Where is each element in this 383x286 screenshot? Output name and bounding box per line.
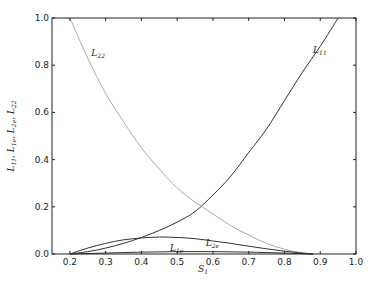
series-l11 [70,18,338,254]
x-tick-label: 1.0 [349,257,364,267]
x-tick-label: 0.3 [98,257,112,267]
x-tick-label: 0.2 [63,257,77,267]
x-tick-label: 0.8 [277,257,292,267]
y-tick-label: 0.2 [35,202,49,212]
y-tick-label: 0.4 [35,155,50,165]
curve-label-l1e: L1e [169,243,184,254]
curve-labels: L11L22L2eL1e [90,45,326,254]
y-tick-label: 0.0 [35,249,50,259]
y-tick-label: 0.8 [35,60,50,70]
series-l22 [70,18,313,254]
curve-label-l2e: L2e [205,238,220,249]
x-tick-label: 0.7 [242,257,256,267]
x-tick-label: 0.6 [206,257,221,267]
y-tick-label: 1.0 [35,13,50,23]
line-chart: 0.20.30.40.50.60.70.80.91.00.00.20.40.60… [0,0,383,286]
curve-label-l22: L22 [90,48,105,59]
x-tick-label: 0.4 [134,257,149,267]
x-tick-label: 0.5 [170,257,184,267]
plot-lines [70,18,338,254]
y-axis-label: L11, L1e, L2e, L22 [6,100,17,172]
y-tick-label: 0.6 [35,107,50,117]
x-tick-label: 0.9 [313,257,328,267]
